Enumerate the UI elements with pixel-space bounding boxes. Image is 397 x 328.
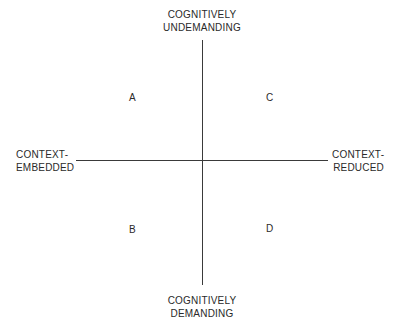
axis-label-cognitively-undemanding: COGNITIVELY UNDEMANDING — [0, 8, 397, 34]
axis-label-line: DEMANDING — [0, 307, 397, 320]
axis-label-line: CONTEXT- — [16, 148, 74, 161]
axis-label-cognitively-demanding: COGNITIVELY DEMANDING — [0, 294, 397, 320]
axis-label-context-reduced: CONTEXT- REDUCED — [332, 148, 384, 174]
quadrant-label-a: A — [129, 92, 136, 104]
axis-label-line: COGNITIVELY — [0, 294, 397, 307]
quadrant-label-b: B — [129, 224, 136, 236]
vertical-axis-line — [202, 40, 203, 285]
axis-label-line: EMBEDDED — [16, 161, 74, 174]
quadrant-label-c: C — [266, 92, 273, 104]
axis-label-line: REDUCED — [332, 161, 384, 174]
axis-label-line: UNDEMANDING — [0, 21, 397, 34]
axis-label-line: COGNITIVELY — [0, 8, 397, 21]
axis-label-context-embedded: CONTEXT- EMBEDDED — [16, 148, 74, 174]
quadrant-label-d: D — [266, 223, 273, 235]
axis-label-line: CONTEXT- — [332, 148, 384, 161]
